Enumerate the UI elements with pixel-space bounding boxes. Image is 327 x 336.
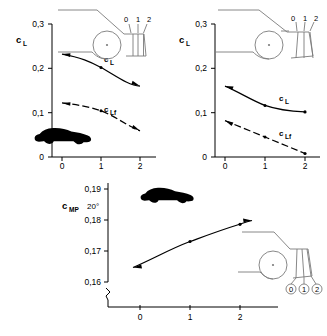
right-curve-clf — [225, 121, 307, 155]
left-xtick-2: 2 — [138, 161, 143, 171]
right-ytick-2: 0,2 — [195, 63, 207, 73]
left-xtick-0: 0 — [60, 161, 65, 171]
bottom-yaxis-label: c MP — [62, 200, 79, 213]
bottom-yaxis-sub: MP — [69, 206, 79, 213]
left-label-clf-base: c — [104, 105, 109, 114]
bottom-xtick-2: 2 — [238, 312, 243, 322]
right-label-cl-sub: L — [285, 98, 289, 105]
left-ytick-2: 0,2 — [32, 63, 44, 73]
right-curve-cl — [225, 86, 307, 113]
right-label-clf-base: c — [279, 129, 284, 138]
left-yaxis-base: c — [16, 34, 21, 45]
panel-bottom-moment-chart: 0,19 0,18 0,17 0,16 0 1 2 c MP 20° — [60, 172, 327, 336]
inset-left-num-2: 2 — [147, 15, 151, 24]
right-yaxis-sub: L — [186, 40, 190, 47]
right-xtick-2: 2 — [303, 161, 308, 171]
right-ytick-1: 0,1 — [195, 108, 207, 118]
right-xtick-0: 0 — [223, 161, 228, 171]
panel-left-lift-chart: 0 0,1 0,2 0,3 0 1 2 c L c — [0, 0, 163, 170]
bottom-ytick-2: 0,18 — [84, 215, 101, 225]
inset-right-num-1: 1 — [303, 14, 307, 23]
left-curve-label-clf: c Lf — [104, 105, 117, 116]
inset-bottom-num-2: 2 — [315, 285, 319, 294]
right-xtick-1: 1 — [263, 161, 268, 171]
inset-right-num-2: 2 — [314, 14, 318, 23]
bottom-ytick-3: 0,19 — [84, 184, 101, 194]
inset-rear-end-left: 0 1 2 — [58, 10, 151, 59]
inset-left-num-0: 0 — [124, 15, 128, 24]
right-ytick-0: 0 — [202, 152, 207, 162]
left-label-clf-sub: Lf — [110, 109, 117, 116]
panel-right-lift-chart: 0 0,1 0,2 0,3 0 1 2 c L c L c — [163, 0, 327, 170]
bottom-axes — [104, 183, 278, 310]
bottom-xtick-0: 0 — [138, 312, 143, 322]
bottom-yaxis-base: c — [62, 200, 67, 211]
right-label-cl-base: c — [279, 94, 284, 103]
left-ytick-1: 0,1 — [32, 108, 44, 118]
inset-rear-end-right: 0 1 2 — [215, 10, 318, 59]
bottom-xtick-1: 1 — [188, 312, 193, 322]
inset-left-num-1: 1 — [136, 15, 140, 24]
right-ytick-3: 0,3 — [195, 19, 207, 29]
left-ytick-0: 0 — [39, 152, 44, 162]
left-xtick-1: 1 — [99, 161, 104, 171]
bottom-curve-cmp — [133, 218, 252, 268]
right-yaxis-label: c L — [179, 34, 190, 47]
bottom-ytick-1: 0,17 — [84, 246, 101, 256]
inset-right-num-0: 0 — [291, 14, 295, 23]
left-yaxis-sub: L — [23, 40, 27, 47]
left-curve-clf — [62, 102, 140, 131]
left-yaxis-label: c L — [16, 34, 27, 47]
right-curve-label-clf: c Lf — [279, 129, 292, 140]
car-side-silhouette — [35, 128, 92, 144]
inset-rear-end-bottom: 0 1 2 — [238, 232, 322, 294]
inset-bottom-num-1: 1 — [302, 285, 306, 294]
bottom-ytick-0: 0,16 — [84, 277, 101, 287]
right-label-clf-sub: Lf — [285, 133, 292, 140]
right-yaxis-base: c — [179, 34, 184, 45]
right-curve-label-cl: c L — [279, 94, 289, 105]
left-label-cl-base: c — [104, 55, 109, 64]
inset-bottom-num-0: 0 — [289, 285, 293, 294]
left-ytick-3: 0,3 — [32, 19, 44, 29]
car-side-silhouette — [141, 188, 194, 203]
left-curve-label-cl: c L — [104, 55, 114, 66]
left-label-cl-sub: L — [110, 59, 114, 66]
bottom-angle-annotation: 20° — [87, 202, 99, 211]
